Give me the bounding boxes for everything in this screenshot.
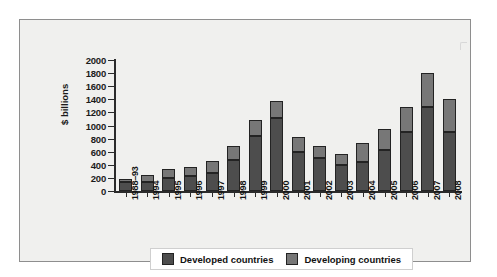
- bar-segment-developing: [356, 143, 369, 162]
- plot-area: 0200400600800100012001400160018002000 19…: [115, 60, 460, 191]
- legend-label: Developed countries: [180, 254, 273, 265]
- x-axis-category-label: 2006: [410, 181, 420, 200]
- y-axis-tick: [108, 191, 115, 192]
- y-axis-tick-label: 1800: [86, 68, 106, 79]
- y-axis-tick-label: 1400: [86, 94, 106, 105]
- page-edge-mark: [460, 42, 467, 50]
- y-axis-tick: [108, 86, 115, 87]
- x-axis-tick: [277, 191, 278, 197]
- bar-segment-developing: [206, 161, 219, 173]
- x-axis-tick: [428, 191, 429, 197]
- chart-panel: $ billions 02004006008001000120014001600…: [19, 19, 471, 262]
- chart-legend: Developed countriesDeveloping countries: [150, 248, 413, 270]
- chart-figure: $ billions 02004006008001000120014001600…: [0, 0, 497, 277]
- bar-segment-developing: [184, 167, 197, 176]
- x-axis-tick: [212, 191, 213, 197]
- x-axis-category-label: 2007: [432, 181, 442, 200]
- x-axis-category-label: 2001: [302, 181, 312, 200]
- y-axis-tick: [108, 139, 115, 140]
- bar-stack: [443, 99, 456, 191]
- x-axis-tick: [363, 191, 364, 197]
- x-axis-category-label: 1988–93: [130, 166, 140, 200]
- x-axis-category-label: 1997: [216, 181, 226, 200]
- bar-stack: [270, 101, 283, 191]
- x-axis-tick: [169, 191, 170, 197]
- bar-segment-developing: [270, 101, 283, 118]
- bar-segment-developing: [421, 73, 434, 107]
- bar-segment-developing: [443, 99, 456, 132]
- x-axis-tick: [320, 191, 321, 197]
- x-axis-tick: [298, 191, 299, 197]
- x-axis-category-label: 1998: [238, 181, 248, 200]
- bar-segment-developing: [227, 146, 240, 160]
- x-axis-category-label: 2003: [345, 181, 355, 200]
- legend-label: Developing countries: [304, 254, 401, 265]
- bar-stack: [400, 107, 413, 191]
- x-axis-tick: [190, 191, 191, 197]
- x-axis-category-label: 2002: [324, 181, 334, 200]
- y-axis-tick-label: 800: [91, 133, 106, 144]
- bar-segment-developing: [400, 107, 413, 132]
- y-axis-tick-label: 400: [91, 159, 106, 170]
- bar-segment-developed: [421, 107, 434, 191]
- x-axis-category-label: 1994: [151, 181, 161, 200]
- y-axis-tick: [108, 152, 115, 153]
- y-axis-tick: [108, 60, 115, 61]
- x-axis-tick: [126, 191, 127, 197]
- x-axis-tick: [449, 191, 450, 197]
- x-axis-category-label: 2008: [453, 181, 463, 200]
- x-axis-tick: [385, 191, 386, 197]
- x-axis-tick: [406, 191, 407, 197]
- x-axis-tick: [341, 191, 342, 197]
- y-axis-tick-label: 0: [101, 186, 106, 197]
- x-axis-category-label: 2000: [281, 181, 291, 200]
- y-axis-tick-label: 1000: [86, 120, 106, 131]
- bar-segment-developing: [162, 169, 175, 178]
- x-axis-category-label: 2004: [367, 181, 377, 200]
- y-axis-tick: [108, 165, 115, 166]
- x-axis-category-label: 1995: [173, 181, 183, 200]
- legend-swatch-icon: [162, 253, 174, 265]
- x-axis-tick: [234, 191, 235, 197]
- y-axis-tick-label: 2000: [86, 55, 106, 66]
- y-axis-tick: [108, 99, 115, 100]
- x-axis-category-label: 1999: [259, 181, 269, 200]
- y-axis-tick-label: 1200: [86, 107, 106, 118]
- x-axis-tick: [255, 191, 256, 197]
- y-axis-tick: [108, 126, 115, 127]
- bar-segment-developing: [378, 129, 391, 150]
- x-axis-category-label: 1996: [194, 181, 204, 200]
- y-axis-tick: [108, 178, 115, 179]
- bar-segment-developing: [292, 137, 305, 151]
- legend-item: Developed countries: [162, 253, 273, 265]
- bar-segment-developing: [249, 120, 262, 136]
- y-axis-tick: [108, 73, 115, 74]
- legend-item: Developing countries: [286, 253, 401, 265]
- y-axis-tick-label: 600: [91, 146, 106, 157]
- legend-swatch-icon: [286, 253, 298, 265]
- y-axis-tick-label: 200: [91, 172, 106, 183]
- bar-stack: [421, 73, 434, 191]
- x-axis-category-label: 2005: [389, 181, 399, 200]
- y-axis-tick: [108, 112, 115, 113]
- y-axis-tick-label: 1600: [86, 81, 106, 92]
- x-axis-tick: [147, 191, 148, 197]
- bar-segment-developing: [313, 146, 326, 157]
- bar-segment-developing: [335, 154, 348, 166]
- y-axis-title: $ billions: [59, 84, 70, 125]
